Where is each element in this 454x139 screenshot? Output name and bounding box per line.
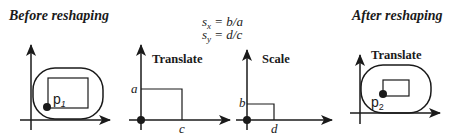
a-mark: a [131,81,138,96]
scale-label: Scale [262,52,290,66]
point-p1-dot-icon [43,103,51,111]
panel-after: Translate p2 [350,48,440,124]
after-reshaping-title: After reshaping [351,8,443,23]
translate-rectangle [141,89,182,120]
c-mark: c [179,121,185,136]
translate-label: Translate [371,48,422,62]
panel-scale: Scale b d [236,50,332,136]
panel-translate: Translate a c [129,45,230,136]
point-p1-label: p1 [53,91,66,109]
point-p2-dot-icon [379,90,387,98]
panel-before: p1 [20,45,110,130]
scale-equations: sx = b/a sy = d/c [202,14,243,44]
origin-dot-icon [243,116,251,124]
rounded-shape [33,68,103,119]
scale-rectangle [247,104,274,120]
before-reshaping-title: Before reshaping [8,8,109,23]
d-mark: d [271,121,278,136]
origin-dot-icon [137,116,145,124]
reshaping-diagram: Before reshaping After reshaping sx = b/… [0,0,454,139]
b-mark: b [239,95,246,110]
translate-label: Translate [152,52,203,66]
